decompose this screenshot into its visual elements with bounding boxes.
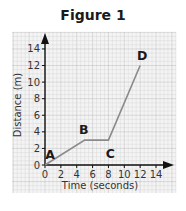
y-tick-label: 10 [27,77,40,88]
x-axis-label: Time (seconds) [61,180,138,191]
point-label-b: B [79,122,89,137]
x-tick-label: 4 [74,169,80,180]
x-tick-label: 0 [42,169,48,180]
x-tick-label: 6 [89,169,95,180]
y-tick-label: 14 [27,43,40,54]
x-tick-label: 14 [150,169,163,180]
y-axis-label: Distance (m) [12,73,23,138]
distance-time-chart: 0246810121402468101214 ABCD Time (second… [0,0,186,211]
y-tick-label: 0 [34,160,40,171]
point-label-c: C [106,146,115,161]
y-tick-label: 8 [34,93,40,104]
point-label-a: A [45,147,55,162]
x-tick-label: 12 [134,169,147,180]
y-tick-label: 6 [34,110,40,121]
x-tick-label: 2 [58,169,64,180]
x-tick-label: 8 [105,169,111,180]
y-tick-label: 4 [34,126,40,137]
y-tick-label: 2 [34,143,40,154]
x-tick-label: 10 [118,169,131,180]
point-label-d: D [137,48,147,63]
y-tick-label: 12 [27,60,40,71]
